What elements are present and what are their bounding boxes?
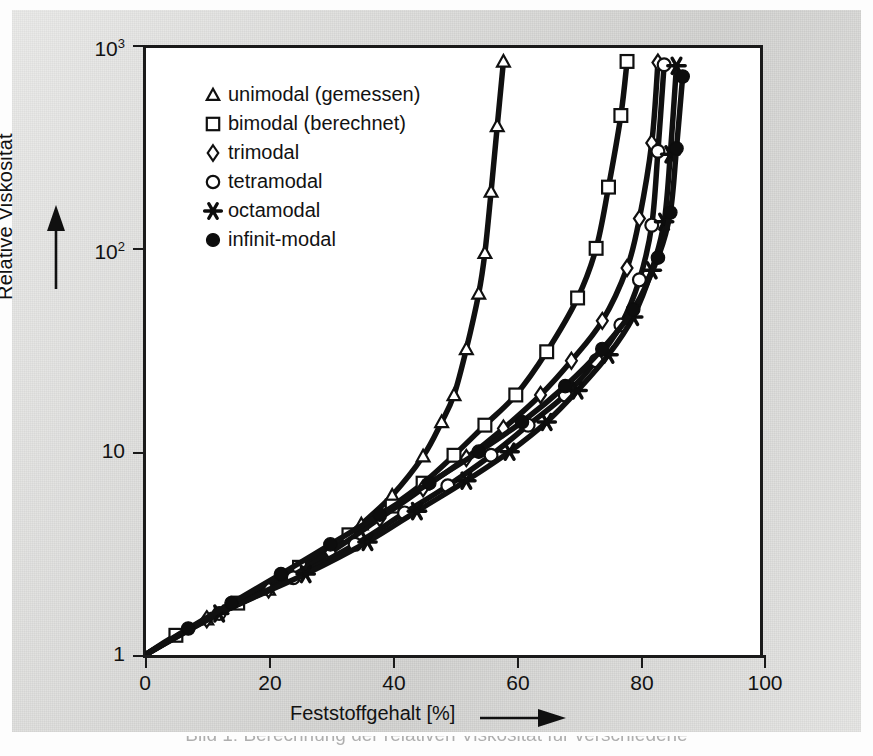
x-tick-40 xyxy=(393,656,395,668)
legend-item-unimodal-gemessen: unimodal (gemessen) xyxy=(198,80,420,109)
x-tick-label-20: 20 xyxy=(240,672,300,693)
x-tick-60 xyxy=(517,656,519,668)
y-tick-label-10: 10 xyxy=(0,440,125,461)
x-tick-label-100: 100 xyxy=(735,672,795,693)
legend-item-label: infinit-modal xyxy=(228,228,336,251)
x-tick-label-0: 0 xyxy=(115,672,175,693)
y-axis-title: Relative Viskosität xyxy=(0,133,17,300)
legend: unimodal (gemessen)bimodal (berechnet)tr… xyxy=(198,80,420,254)
y-tick-100 xyxy=(133,248,145,250)
star-icon xyxy=(198,200,228,222)
circle-open-icon xyxy=(198,171,228,193)
x-axis-title: Feststoffgehalt [%] xyxy=(290,702,455,725)
y-tick-1 xyxy=(133,655,145,657)
y-tick-10 xyxy=(133,452,145,454)
legend-item-label: octamodal xyxy=(228,199,320,222)
x-tick-80 xyxy=(641,656,643,668)
legend-item-octamodal: octamodal xyxy=(198,196,420,225)
legend-item-infinit-modal: infinit-modal xyxy=(198,225,420,254)
circle-filled-icon xyxy=(198,229,228,251)
figure-caption-cropped: Bild 1: Berechnung der relativen Viskosi… xyxy=(12,736,861,756)
y-tick-label-1000: 103 xyxy=(0,33,125,59)
triangle-open-icon xyxy=(198,84,228,106)
y-tick-label-1: 1 xyxy=(0,643,125,664)
y-axis-arrow-icon xyxy=(46,205,66,291)
x-tick-label-40: 40 xyxy=(364,672,424,693)
legend-item-label: bimodal (berechnet) xyxy=(228,112,406,135)
legend-item-tetramodal: tetramodal xyxy=(198,167,420,196)
figure-page: 103 102 10 1 0 20 40 60 80 100 Relative … xyxy=(0,0,873,756)
legend-item-label: tetramodal xyxy=(228,170,323,193)
x-tick-20 xyxy=(269,656,271,668)
x-tick-label-80: 80 xyxy=(612,672,672,693)
x-tick-100 xyxy=(764,656,766,668)
x-axis-arrow-icon xyxy=(480,708,566,728)
x-axis-line xyxy=(145,655,766,658)
diamond-open-icon xyxy=(198,142,228,164)
legend-item-label: unimodal (gemessen) xyxy=(228,83,420,106)
square-open-icon xyxy=(198,113,228,135)
legend-item-trimodal: trimodal xyxy=(198,138,420,167)
legend-item-bimodal-berechnet: bimodal (berechnet) xyxy=(198,109,420,138)
legend-item-label: trimodal xyxy=(228,141,299,164)
x-tick-0 xyxy=(145,656,147,668)
y-tick-1000 xyxy=(133,45,145,47)
x-tick-label-60: 60 xyxy=(488,672,548,693)
